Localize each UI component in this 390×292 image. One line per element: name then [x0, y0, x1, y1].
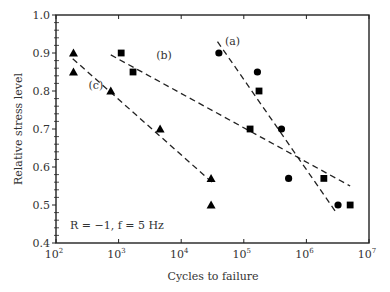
fit-lines [73, 42, 350, 213]
series-label: (b) [156, 49, 172, 62]
x-tick-label: 104 [170, 247, 189, 261]
x-tick-label: 105 [233, 247, 251, 261]
square-marker [247, 126, 254, 133]
circle-marker [334, 201, 341, 208]
triangle-marker [69, 68, 78, 76]
x-tick-exponent: 3 [121, 247, 125, 255]
data-markers [69, 49, 354, 209]
test-conditions-annotation: R = −1, f = 5 Hz [70, 219, 164, 232]
x-tick-label: 102 [45, 247, 63, 261]
x-tick-label: 107 [358, 247, 376, 261]
chart-svg: 0.40.50.60.70.80.91.0102103104105106107 … [0, 0, 390, 292]
x-tick-label: 106 [295, 247, 314, 261]
circle-marker [215, 49, 222, 56]
plot-border [56, 15, 369, 243]
x-tick-exponent: 5 [247, 247, 251, 255]
fit-line-square [111, 55, 350, 186]
y-tick-label: 0.5 [33, 199, 51, 212]
circle-marker [254, 68, 261, 75]
fit-line-circle [217, 42, 336, 213]
y-tick-label: 1.0 [33, 9, 51, 22]
circle-marker [285, 175, 292, 182]
series-label: (a) [225, 35, 240, 48]
y-tick-label: 0.6 [33, 161, 51, 174]
y-tick-label: 0.9 [33, 47, 51, 60]
y-axis-label: Relative stress level [12, 73, 25, 185]
x-tick-exponent: 7 [372, 247, 376, 255]
square-marker [347, 202, 354, 209]
x-axis-label: Cycles to failure [167, 270, 258, 283]
y-tick-label: 0.8 [33, 85, 51, 98]
triangle-marker [106, 87, 115, 95]
triangle-marker [207, 201, 216, 209]
y-tick-label: 0.7 [33, 123, 51, 136]
sn-chart: 0.40.50.60.70.80.91.0102103104105106107 … [0, 0, 390, 292]
triangle-marker [156, 125, 165, 133]
plot-frame [56, 15, 369, 243]
fit-line-triangle [73, 59, 212, 183]
x-tick-exponent: 2 [59, 247, 63, 255]
square-marker [320, 175, 327, 182]
square-marker [256, 88, 263, 95]
triangle-marker [69, 49, 78, 57]
x-tick-exponent: 4 [184, 247, 189, 255]
square-marker [130, 69, 137, 76]
circle-marker [278, 125, 285, 132]
series-label: (c) [88, 79, 103, 92]
x-tick-exponent: 6 [309, 247, 314, 255]
x-tick-label: 103 [107, 247, 125, 261]
square-marker [118, 50, 125, 57]
